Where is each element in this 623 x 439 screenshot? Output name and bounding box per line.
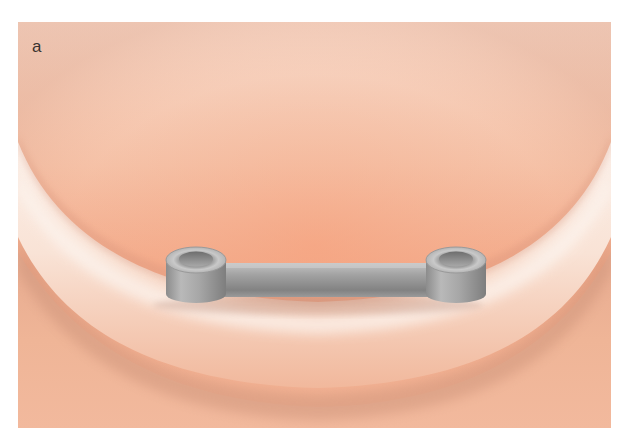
panel-label: a (32, 38, 41, 55)
left-sleeve-hole (179, 252, 213, 267)
right-sleeve (426, 247, 486, 303)
illustration-panel: a (18, 22, 611, 428)
right-sleeve-hole (439, 252, 473, 267)
connector-bar (221, 263, 433, 297)
jaw-ridge-illustration (18, 22, 611, 428)
left-sleeve (166, 247, 226, 303)
